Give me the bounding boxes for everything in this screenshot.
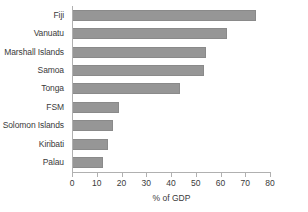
x-axis-tick [196,173,197,177]
category-label: Palau [43,158,64,167]
bar [72,10,256,21]
bar [72,83,180,94]
bar-row [72,98,270,116]
x-axis-tick [221,173,222,177]
bar-row [72,154,270,172]
category-label-row: Palau [0,154,68,172]
plot-area [72,6,270,172]
bar [72,65,204,76]
category-label-row: FSM [0,98,68,116]
bar [72,102,119,113]
bar-row [72,43,270,61]
category-label-row: Marshall Islands [0,43,68,61]
category-axis-labels: FijiVanuatuMarshall IslandsSamoaTongaFSM… [0,6,68,172]
x-axis-tick-label: 60 [216,178,225,188]
category-label-row: Tonga [0,80,68,98]
x-axis-tick-labels: 01020304050607080 [0,178,308,190]
bar [72,157,103,168]
bar [72,47,206,58]
category-label-row: Kiribati [0,135,68,153]
category-label-row: Fiji [0,6,68,24]
x-axis-tick [270,173,271,177]
x-axis-tick-label: 50 [191,178,200,188]
bar [72,139,108,150]
category-label-row: Solomon Islands [0,117,68,135]
category-label: Marshall Islands [4,48,64,57]
bar-chart: FijiVanuatuMarshall IslandsSamoaTongaFSM… [0,0,308,212]
category-label-row: Vanuatu [0,24,68,42]
x-axis-tick-label: 70 [241,178,250,188]
category-label: Samoa [38,66,64,75]
x-axis-tick [122,173,123,177]
value-axis-line [72,6,73,173]
x-axis-tick-label: 10 [92,178,101,188]
bar-row [72,135,270,153]
x-axis-tick-label: 20 [117,178,126,188]
bar-row [72,6,270,24]
category-label: FSM [46,103,64,112]
x-axis-tick-label: 30 [142,178,151,188]
category-label: Kiribati [39,140,64,149]
bar [72,28,227,39]
category-label: Fiji [54,11,64,20]
category-label: Tonga [41,84,64,93]
x-axis-tick [72,173,73,177]
x-axis-tick [97,173,98,177]
x-axis-tick-label: 0 [70,178,75,188]
x-axis-tick-label: 40 [166,178,175,188]
x-axis-tick-label: 80 [265,178,274,188]
category-label: Vanuatu [34,29,64,38]
category-label: Solomon Islands [3,121,64,130]
x-axis-tick [245,173,246,177]
x-axis-ticks [72,173,271,177]
category-label-row: Samoa [0,61,68,79]
x-axis-tick [171,173,172,177]
bar-row [72,117,270,135]
bar-row [72,24,270,42]
x-axis-title: % of GDP [72,193,271,203]
bar-row [72,80,270,98]
x-axis-tick [146,173,147,177]
bar-row [72,61,270,79]
bar [72,120,113,131]
